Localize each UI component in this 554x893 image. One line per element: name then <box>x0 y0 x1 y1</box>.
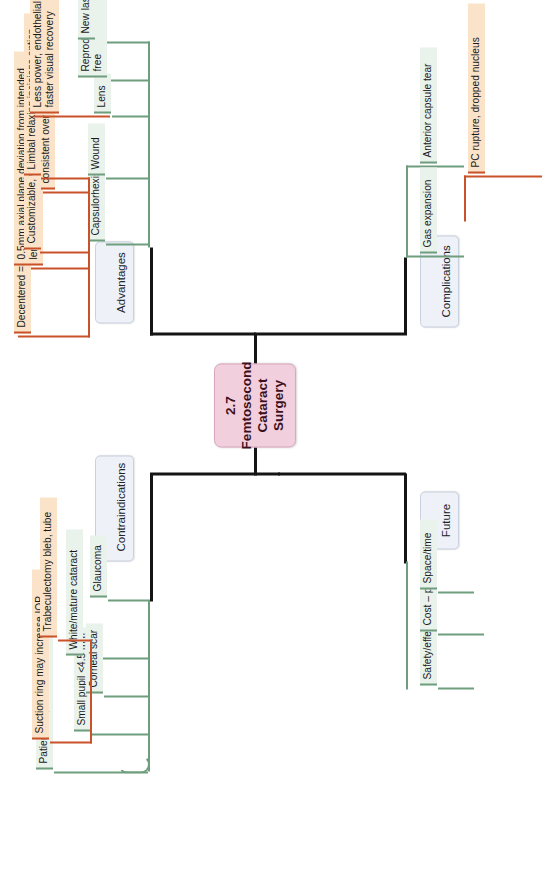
leaf-less-power-endothelial[interactable]: Less power, endothelial cell loss, faste… <box>30 0 59 113</box>
stem-cost <box>438 633 484 635</box>
stem-patient-cooperation <box>54 771 148 773</box>
stem-glaucoma <box>108 599 148 601</box>
category-future-label: Future <box>440 503 452 536</box>
contraindications-bus-cap <box>118 755 150 773</box>
leaf-space-time[interactable]: Space/time <box>420 519 437 589</box>
complications-bus <box>406 165 408 257</box>
contraindications-bus <box>148 599 150 771</box>
category-advantages[interactable]: Advantages <box>95 241 134 323</box>
advantages-bus <box>148 41 150 247</box>
stem-small-pupil <box>92 733 148 735</box>
stem-decentered <box>18 335 90 337</box>
trunk-spine-upper <box>150 472 280 475</box>
trunk-spine-lower <box>278 472 406 475</box>
root-node[interactable]: 2.7 Femtosecond Cataract Surgery <box>214 363 296 447</box>
stem-pc-rupture <box>464 175 542 177</box>
stem-less-power <box>34 115 110 117</box>
trunk-to-complications <box>404 257 407 335</box>
trunk-root-right-stub <box>254 333 257 363</box>
leaf-wound[interactable]: Wound <box>88 123 105 175</box>
stem-space-time <box>438 591 474 593</box>
trunk-spine-right-lower <box>254 332 404 335</box>
trunk-to-advantages <box>150 247 153 335</box>
mindmap-canvas: 2.7 Femtosecond Cataract Surgery Contrai… <box>0 0 554 893</box>
trunk-root-left-stub <box>254 447 257 475</box>
leaf-pc-rupture-dropped-nucleus[interactable]: PC rupture, dropped nucleus <box>468 3 485 173</box>
stem-trabeculectomy <box>58 639 92 641</box>
stem-suction-ring <box>50 741 92 743</box>
leaf-gas-expansion[interactable]: Gas expansion <box>420 167 437 253</box>
leaf-glaucoma[interactable]: Glaucoma <box>90 535 107 597</box>
stem-wound <box>106 177 150 179</box>
trunk-to-contraindications <box>150 473 153 601</box>
trunk-spine-right-upper <box>150 332 256 335</box>
category-advantages-label: Advantages <box>115 252 127 313</box>
gas-expansion-bus <box>464 175 466 221</box>
leaf-anterior-capsule-tear[interactable]: Anterior capsule tear <box>420 47 437 163</box>
leaf-trabeculectomy[interactable]: Trabeculectomy bleb, tube <box>40 497 57 637</box>
stem-lens <box>112 115 150 117</box>
leaf-lens[interactable]: Lens <box>94 73 111 113</box>
stem-corneal-scar <box>104 695 148 697</box>
leaf-corneal-scar[interactable]: Corneal scar <box>86 623 103 693</box>
category-contraindications-label: Contraindications <box>115 462 127 551</box>
trunk-to-future <box>404 473 407 563</box>
stem-gas-expansion <box>406 255 464 257</box>
stem-capsulorhexis <box>106 243 150 245</box>
stem-customizable <box>40 251 90 253</box>
leaf-white-mature-cataract[interactable]: White/mature cataract <box>66 529 83 655</box>
wound-bus <box>88 177 90 253</box>
future-bus <box>406 561 408 689</box>
stem-safety-effectiveness <box>438 687 474 689</box>
stem-limbal-relaxing <box>40 177 90 179</box>
mindmap-rotated-group: 2.7 Femtosecond Cataract Surgery Contrai… <box>0 0 554 893</box>
glaucoma-bus <box>90 639 92 743</box>
leaf-new-laser-technology[interactable]: New laser technology <box>78 0 95 39</box>
